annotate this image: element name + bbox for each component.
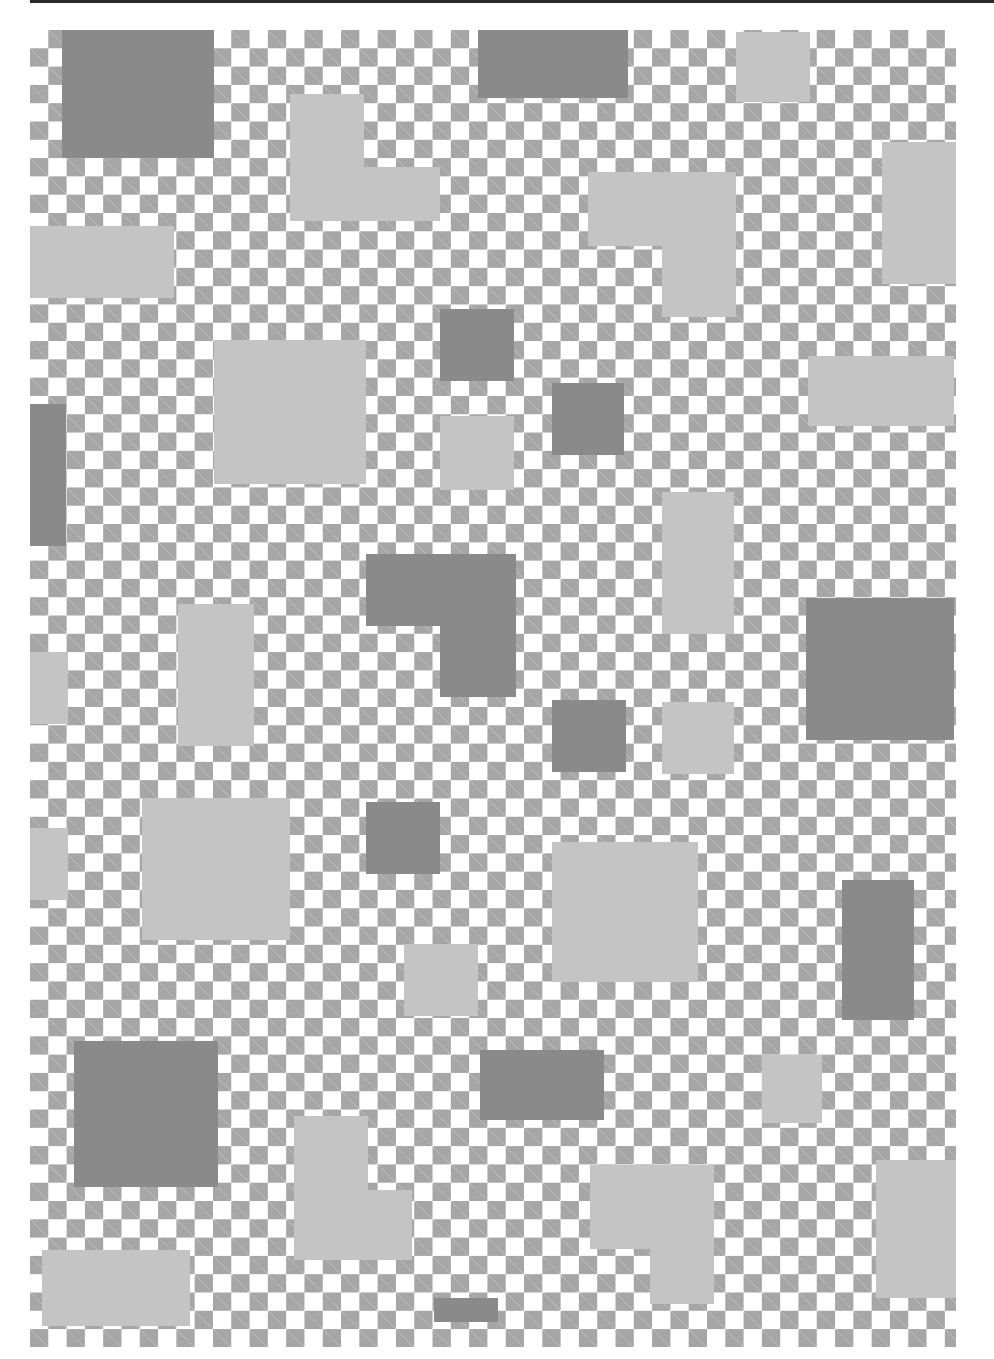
dark-l-block-center-leg <box>440 625 516 697</box>
dark-square-lower-center <box>366 802 440 874</box>
light-l-block-top-base <box>290 167 440 221</box>
light-block-left-edge-2 <box>30 652 68 724</box>
dark-strip-bottom <box>434 1298 498 1322</box>
light-block-left-edge-3 <box>30 828 68 900</box>
light-block-bottom-center-3 <box>650 1248 714 1304</box>
dark-tall-block-lower-right <box>842 880 914 1020</box>
light-tall-block-mid-right <box>662 492 734 634</box>
light-block-large-lower-left <box>142 798 290 940</box>
light-block-right-mid <box>808 356 954 426</box>
light-l-block-top <box>290 94 364 168</box>
dark-square-center-1 <box>440 309 514 381</box>
light-square-lower-center <box>404 944 478 1016</box>
light-block-far-right <box>882 142 956 284</box>
dark-block-top-center <box>478 30 628 98</box>
light-block-bottom-left-edge <box>42 1250 190 1326</box>
dark-block-bottom-left <box>74 1041 218 1187</box>
dark-l-block-center <box>366 554 516 626</box>
light-block-top-right <box>736 32 810 102</box>
light-l-block-right <box>588 172 736 246</box>
light-l-block-right-leg <box>662 245 736 317</box>
dark-block-bottom-center <box>480 1050 604 1120</box>
dark-square-center-3 <box>552 700 626 772</box>
light-block-bottom-far-right <box>876 1160 956 1298</box>
light-block-large-left <box>214 340 366 484</box>
top-border-line <box>30 0 994 3</box>
light-block-bottom-right <box>762 1055 822 1123</box>
light-square-center-2 <box>662 702 734 774</box>
light-tall-block-left <box>178 604 254 746</box>
dark-square-center-2 <box>552 383 624 455</box>
dark-bar-left-edge <box>30 404 66 546</box>
dark-block-top-left <box>62 30 214 158</box>
light-block-large-lower-center <box>552 842 698 982</box>
light-block-bottom-left-2 <box>350 1190 412 1260</box>
dark-block-right-large <box>806 598 954 740</box>
checkerboard-painting: Checkerboard composition with overlaid g… <box>30 30 956 1347</box>
light-block-bottom-center-2 <box>590 1165 714 1249</box>
light-block-left-edge <box>30 226 174 298</box>
light-square-center <box>440 416 514 490</box>
